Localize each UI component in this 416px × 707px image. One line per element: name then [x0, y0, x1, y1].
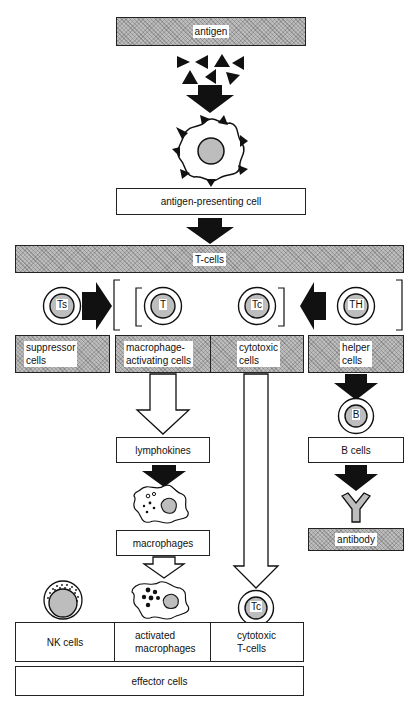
helper-label-line1: helper: [342, 341, 370, 354]
helper-label-line2: cells: [342, 354, 370, 367]
t-cells-box: T-cells: [15, 245, 404, 273]
long-hollow-arrow-down-icon: [232, 374, 280, 590]
t-cell-icon: T: [143, 286, 183, 326]
suppressor-label-line1: suppressor: [26, 341, 75, 354]
tc-bottom-label: Tc: [250, 601, 262, 612]
antibody-icon: [340, 492, 372, 524]
cytotoxic-t-cells-line2: T-cells: [237, 642, 276, 655]
t-label: T: [159, 299, 167, 310]
macrophages-box: macrophages: [116, 530, 210, 556]
suppressor-label-line2: cells: [26, 354, 75, 367]
th-label: TH: [348, 299, 363, 310]
lymphokines-box: lymphokines: [116, 437, 210, 463]
activated-macrophage-icon: [128, 578, 194, 622]
effector-cells-label: effector cells: [132, 675, 188, 688]
antigen-presenting-cell-box: antigen-presenting cell: [116, 188, 306, 215]
macrophage-icon: [130, 480, 192, 526]
activated-macrophages-box: activated macrophages: [114, 622, 211, 662]
nk-cells-box: NK cells: [15, 622, 115, 662]
macrophage-activating-cells-box: macrophage- activating cells: [115, 335, 211, 373]
b-cells-box: B cells: [308, 437, 404, 463]
cytotoxic-t-cells-box: cytotoxic T-cells: [210, 622, 304, 662]
ts-label: Ts: [56, 299, 68, 310]
nk-cell-icon: [39, 580, 87, 620]
suppressor-t-cell-icon: Ts: [42, 286, 82, 326]
arrow-right-icon: [82, 282, 112, 330]
cytotoxic-label-line2: cells: [239, 354, 278, 367]
b-label: B: [352, 409, 361, 420]
macrophages-label: macrophages: [133, 537, 194, 550]
activated-macrophages-line1: activated: [135, 629, 196, 642]
antigen-presenting-cell-icon: [170, 113, 252, 187]
helper-cells-box: helper cells: [308, 335, 404, 373]
hollow-arrow-down-icon: [142, 557, 186, 579]
cytotoxic-t-cells-line1: cytotoxic: [237, 629, 276, 642]
hollow-arrow-down-icon: [135, 374, 191, 434]
antigen-label: antigen: [193, 25, 230, 38]
antibody-label: antibody: [335, 533, 377, 546]
arrow-down-icon: [186, 85, 234, 113]
b-cell-icon: B: [337, 397, 375, 435]
b-cells-label: B cells: [341, 444, 370, 457]
activated-macrophages-line2: macrophages: [135, 642, 196, 655]
antibody-box: antibody: [308, 528, 404, 551]
t-cells-label: T-cells: [193, 253, 226, 266]
suppressor-cells-box: suppressor cells: [15, 335, 110, 373]
effector-cells-box: effector cells: [15, 666, 304, 696]
cytotoxic-t-cell-icon: Tc: [237, 286, 277, 326]
arrow-down-icon: [334, 465, 378, 491]
antigen-box: antigen: [116, 17, 306, 46]
antigen-particles-icon: [170, 52, 250, 88]
tc-label: Tc: [251, 299, 263, 310]
apc-label: antigen-presenting cell: [161, 195, 262, 208]
cytotoxic-cells-box: cytotoxic cells: [210, 335, 304, 373]
helper-t-cell-icon: TH: [336, 286, 376, 326]
arrow-down-icon: [186, 218, 234, 244]
nk-cells-label: NK cells: [47, 636, 84, 649]
macro-activating-label-line2: activating cells: [126, 354, 191, 367]
arrow-left-icon: [300, 282, 326, 330]
lymphokines-label: lymphokines: [135, 444, 191, 457]
macro-activating-label-line1: macrophage-: [126, 341, 191, 354]
cytotoxic-label-line1: cytotoxic: [239, 341, 278, 354]
